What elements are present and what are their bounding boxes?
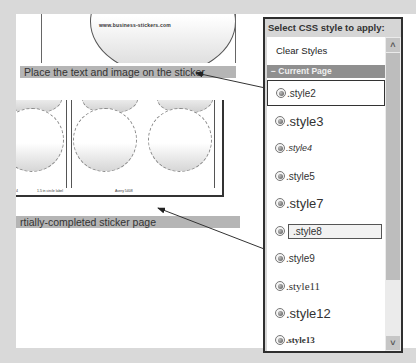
style-bullet-icon: [276, 88, 286, 98]
style-item-style8[interactable]: .style8: [267, 218, 385, 244]
caption-place-text: Place the text and image on the sticker: [20, 66, 236, 78]
style-item-label: .style12: [286, 306, 331, 321]
sheet-label: 4: [16, 189, 18, 193]
sheet-label: Avery 5408: [115, 189, 133, 193]
divider: [214, 100, 215, 188]
style-bullet-icon: [275, 308, 285, 318]
sticker-sheet: 4 1.5 in circle label Avery 5408: [16, 100, 224, 197]
style-list[interactable]: Clear Styles − Current Page .style2 .sty…: [267, 37, 385, 351]
chevron-down-icon: ˅: [390, 338, 395, 348]
style-item-label: .style2: [287, 88, 316, 99]
style-item-label: .style8: [288, 224, 382, 239]
divider: [71, 100, 72, 188]
style-item-style7[interactable]: .style7: [267, 190, 385, 216]
style-bullet-icon: [275, 143, 285, 153]
style-item-label: .style5: [286, 171, 315, 182]
style-item-label: .style9: [286, 253, 315, 264]
sticker-circle: [73, 108, 137, 172]
style-bullet-icon: [275, 253, 285, 263]
sheet-label: 1.5 in circle label: [37, 189, 63, 193]
style-item-style12[interactable]: .style12: [267, 300, 385, 326]
css-style-panel: Select CSS style to apply: Clear Styles …: [263, 17, 403, 353]
sticker-sheet-top-border: [41, 14, 236, 63]
style-bullet-icon: [275, 226, 285, 236]
scroll-thumb[interactable]: [386, 53, 400, 280]
scroll-up-button[interactable]: ˄: [386, 38, 400, 52]
style-item-style5[interactable]: .style5: [267, 163, 385, 189]
style-item-style13[interactable]: .style13: [267, 327, 385, 351]
style-bullet-icon: [275, 116, 285, 126]
sticker-circle: [148, 108, 212, 172]
sticker-circle: [16, 108, 64, 172]
scroll-down-button[interactable]: ˅: [386, 336, 400, 350]
group-header-current-page[interactable]: − Current Page: [267, 65, 385, 78]
style-bullet-icon: [275, 171, 285, 181]
panel-title: Select CSS style to apply:: [268, 22, 385, 33]
style-item-label: .style13: [286, 335, 315, 345]
caption-partial-page: rtially-completed sticker page: [16, 216, 240, 228]
style-item-label: .style7: [286, 196, 324, 211]
style-item-label: .style11: [286, 280, 320, 292]
style-item-label: .style3: [286, 114, 324, 129]
style-bullet-icon: [275, 335, 285, 345]
style-item-style11[interactable]: .style11: [267, 273, 385, 299]
clear-styles-item[interactable]: Clear Styles: [276, 45, 327, 56]
style-item-style9[interactable]: .style9: [267, 245, 385, 271]
style-bullet-icon: [275, 281, 285, 291]
style-item-style3[interactable]: .style3: [267, 108, 385, 134]
divider: [66, 100, 67, 188]
style-item-label: .style4: [286, 143, 312, 153]
chevron-up-icon: ˄: [390, 40, 395, 50]
style-list-scrollbar[interactable]: ˄ ˅: [385, 37, 401, 351]
style-item-style2[interactable]: .style2: [267, 80, 385, 106]
style-bullet-icon: [275, 198, 285, 208]
style-item-style4[interactable]: .style4: [267, 135, 385, 161]
